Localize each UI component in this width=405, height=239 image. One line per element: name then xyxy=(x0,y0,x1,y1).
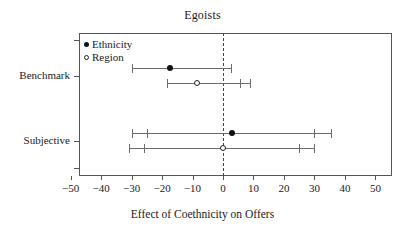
zero-reference-line xyxy=(223,33,224,176)
x-axis-tick xyxy=(375,176,376,180)
confidence-interval-cap xyxy=(299,144,300,153)
x-axis-tick-label: 50 xyxy=(360,182,390,194)
x-axis-tick xyxy=(71,176,72,180)
chart-title: Egoists xyxy=(0,8,405,23)
confidence-interval-cap xyxy=(314,144,315,153)
forest-plot: Egoists Ethnicity Region −50−40−30−20−10… xyxy=(0,0,405,239)
x-axis-title: Effect of Coethnicity on Offers xyxy=(0,208,405,220)
x-axis-tick xyxy=(162,176,163,180)
x-axis-tick-label: −20 xyxy=(147,182,177,194)
confidence-interval-cap xyxy=(331,129,332,138)
x-axis-tick xyxy=(193,176,194,180)
y-axis-tick xyxy=(74,141,79,142)
confidence-interval-cap xyxy=(167,79,168,88)
x-axis-tick-label: −30 xyxy=(117,182,147,194)
legend-label-region: Region xyxy=(92,51,124,63)
y-axis-tick xyxy=(74,76,79,77)
y-axis-label-subjective: Subjective xyxy=(0,134,70,146)
confidence-interval-cap xyxy=(240,79,241,88)
x-axis-tick xyxy=(132,176,133,180)
confidence-interval-cap xyxy=(132,129,133,138)
x-axis-tick xyxy=(253,176,254,180)
x-axis-tick xyxy=(223,176,224,180)
x-axis-tick-label: −10 xyxy=(178,182,208,194)
x-axis-tick-label: 0 xyxy=(208,182,238,194)
y-axis-label-benchmark: Benchmark xyxy=(0,69,70,81)
x-axis-tick-label: 30 xyxy=(299,182,329,194)
confidence-interval-cap xyxy=(231,64,232,73)
confidence-interval-cap xyxy=(144,144,145,153)
y-axis-tick xyxy=(74,40,79,41)
x-axis-tick xyxy=(101,176,102,180)
confidence-interval-line xyxy=(167,83,251,84)
open-circle-icon xyxy=(84,55,89,60)
x-axis-tick-label: 40 xyxy=(330,182,360,194)
plot-frame xyxy=(79,33,392,176)
estimate-point-ethnicity xyxy=(167,65,173,71)
confidence-interval-cap xyxy=(250,79,251,88)
confidence-interval-line xyxy=(132,68,231,69)
x-axis-tick-label: −40 xyxy=(86,182,116,194)
x-axis-tick-label: −50 xyxy=(56,182,86,194)
confidence-interval-cap xyxy=(314,129,315,138)
x-axis-tick xyxy=(345,176,346,180)
y-axis-tick xyxy=(74,168,79,169)
filled-circle-icon xyxy=(84,42,89,47)
x-axis-tick-label: 20 xyxy=(269,182,299,194)
confidence-interval-cap xyxy=(132,64,133,73)
x-axis-tick xyxy=(284,176,285,180)
confidence-interval-cap xyxy=(147,129,148,138)
x-axis-tick xyxy=(314,176,315,180)
estimate-point-region xyxy=(220,145,226,151)
legend-label-ethnicity: Ethnicity xyxy=(92,38,132,50)
confidence-interval-cap xyxy=(129,144,130,153)
x-axis-tick-label: 10 xyxy=(238,182,268,194)
